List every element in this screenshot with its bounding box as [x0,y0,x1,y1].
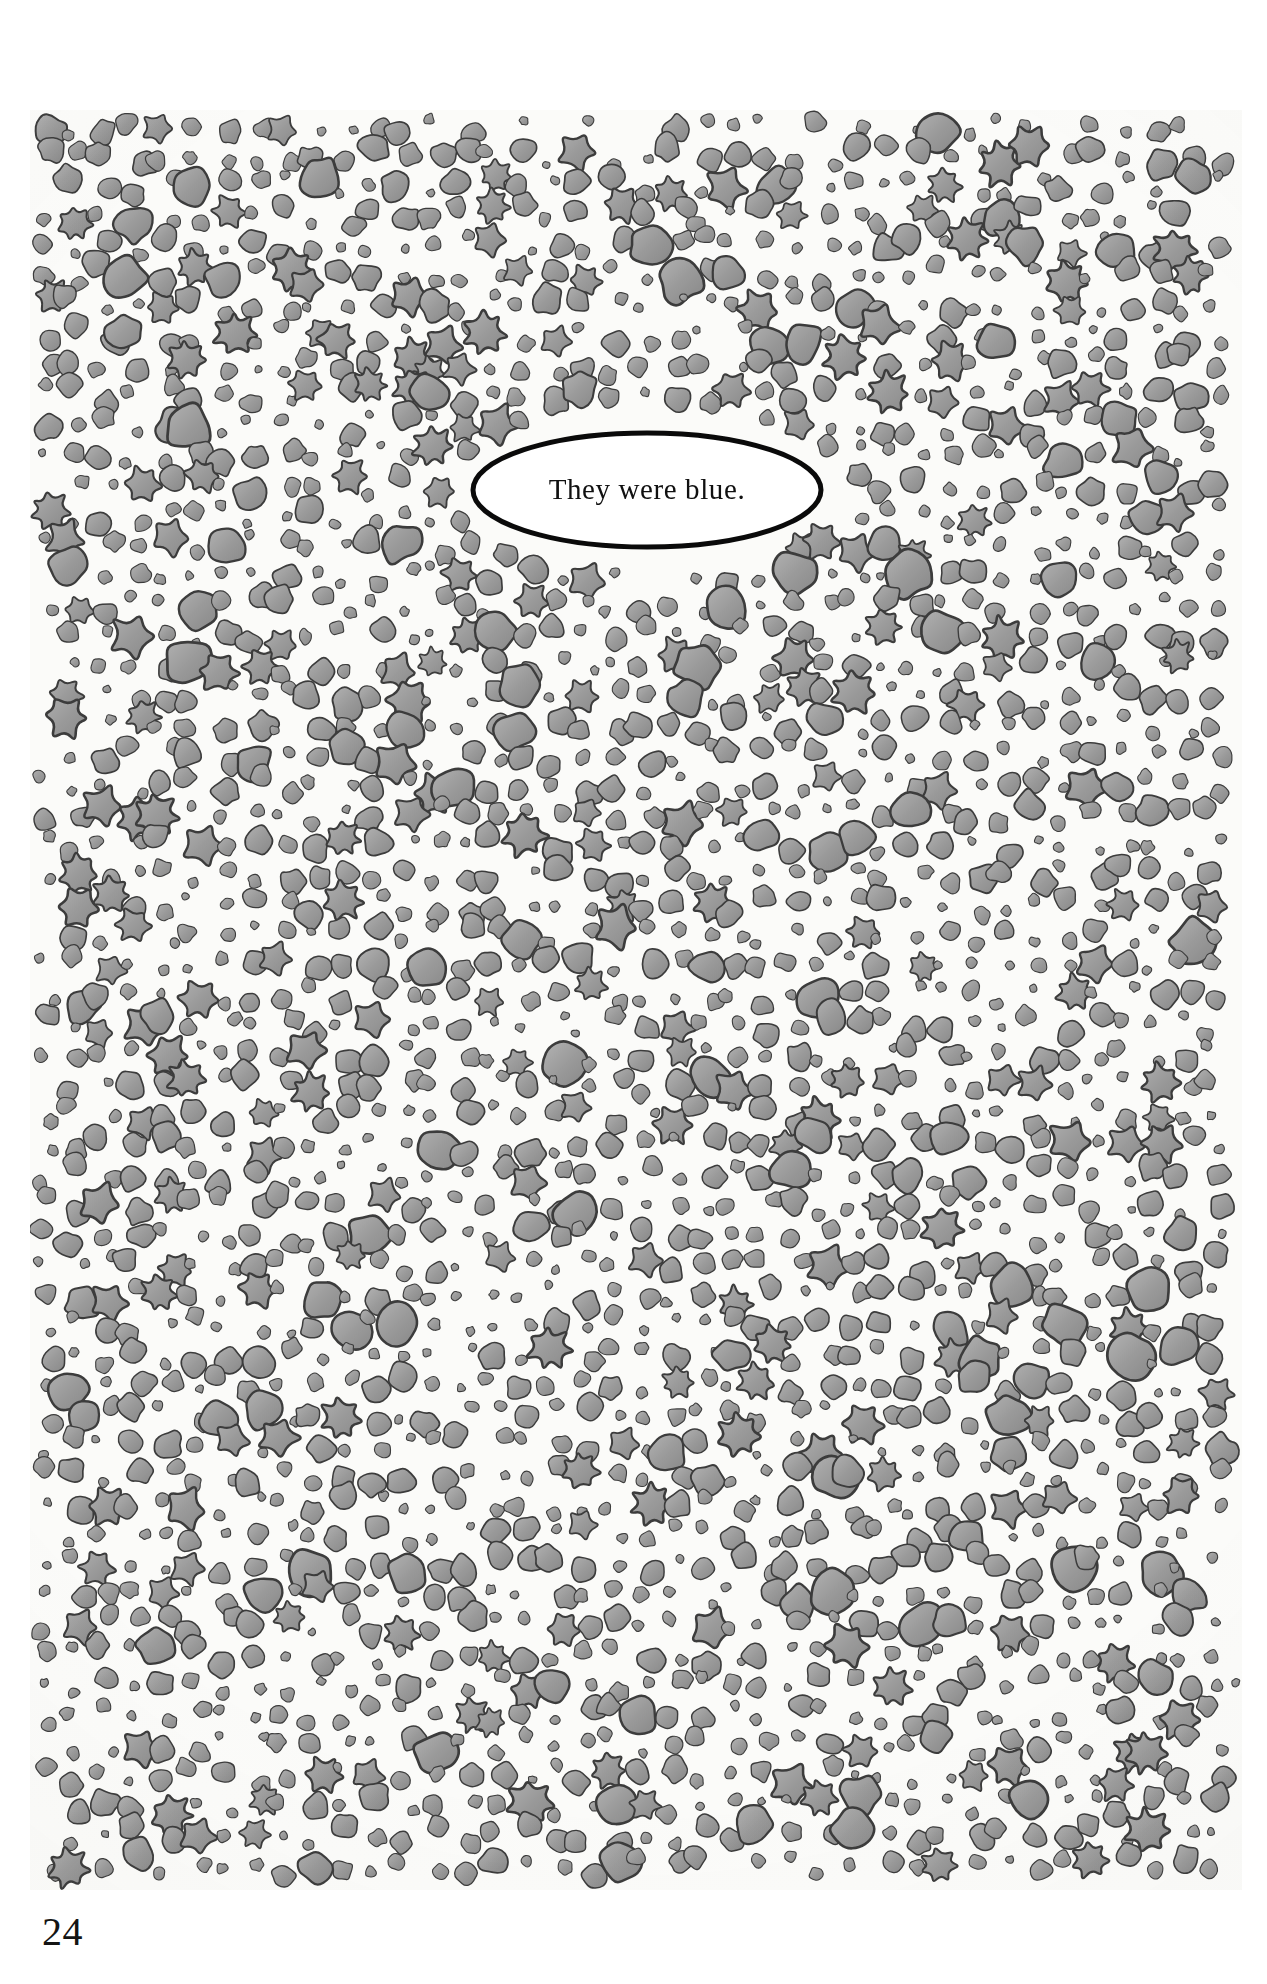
illustration-plate [30,110,1242,1890]
book-page: They were blue. 24 [0,0,1267,1984]
speech-balloon: They were blue. [468,428,826,552]
page-number: 24 [42,1912,83,1952]
speech-balloon-text: They were blue. [468,428,826,552]
blob-pattern-canvas [30,110,1242,1890]
